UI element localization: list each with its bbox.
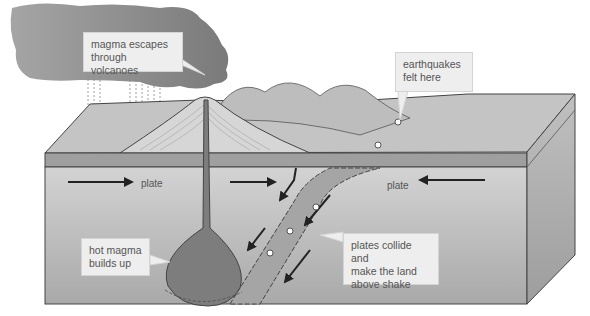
volcano-callout: magma escapes through volcanoes bbox=[83, 32, 183, 72]
collision-callout: plates collide and make the land above s… bbox=[343, 233, 439, 285]
land-surface bbox=[45, 83, 575, 153]
magma-chamber-callout: hot magma builds up bbox=[81, 238, 150, 276]
left-plate-label: plate bbox=[141, 178, 163, 189]
earthquakes-callout: earthquakes felt here bbox=[395, 52, 473, 92]
right-plate-label: plate bbox=[387, 180, 409, 191]
